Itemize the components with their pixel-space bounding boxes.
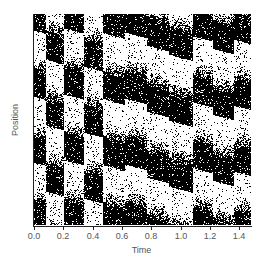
plot-area xyxy=(34,14,251,225)
y-axis-label: Position xyxy=(10,104,20,136)
x-axis-label: Time xyxy=(0,245,267,255)
x-axis-line xyxy=(33,226,252,227)
chart-figure: 0.00.20.40.60.81.01.21.4 Time Position xyxy=(0,0,267,264)
x-tick-label: 0.0 xyxy=(22,231,46,241)
x-tick xyxy=(93,227,94,230)
x-tick xyxy=(63,227,64,230)
x-tick-label: 0.8 xyxy=(139,231,163,241)
x-tick-label: 0.4 xyxy=(81,231,105,241)
x-tick-label: 0.2 xyxy=(51,231,75,241)
x-tick-label: 1.0 xyxy=(169,231,193,241)
x-tick xyxy=(181,227,182,230)
x-tick xyxy=(151,227,152,230)
space-time-raster xyxy=(34,14,251,225)
x-tick-label: 1.2 xyxy=(198,231,222,241)
x-tick xyxy=(239,227,240,230)
y-axis-line xyxy=(33,14,34,227)
x-tick xyxy=(122,227,123,230)
x-tick xyxy=(210,227,211,230)
x-tick xyxy=(34,227,35,230)
x-tick-label: 1.4 xyxy=(227,231,251,241)
x-tick-label: 0.6 xyxy=(110,231,134,241)
